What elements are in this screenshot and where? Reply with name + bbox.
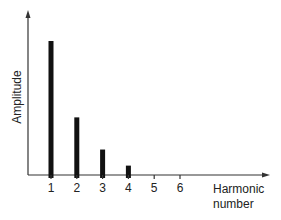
x-tick-label-4: 4: [125, 181, 132, 195]
bar-harmonic-3: [100, 150, 105, 178]
x-tick-label-5: 5: [151, 181, 158, 195]
x-tick-label-2: 2: [73, 181, 80, 195]
y-axis-label: Amplitude: [10, 70, 24, 123]
ticks-group: [51, 175, 180, 179]
x-tick-label-6: 6: [177, 181, 184, 195]
bars-group: [49, 41, 131, 178]
bar-harmonic-1: [49, 41, 54, 178]
y-axis-arrow-icon: [26, 10, 31, 18]
x-axis-label: Harmonic number: [213, 182, 264, 212]
bar-harmonic-2: [74, 117, 79, 178]
x-axis-label-line-2: number: [213, 197, 264, 212]
x-axis-label-line-1: Harmonic: [213, 182, 264, 197]
x-tick-label-3: 3: [99, 181, 106, 195]
x-axis-arrow-icon: [262, 173, 270, 178]
x-tick-label-1: 1: [48, 181, 55, 195]
